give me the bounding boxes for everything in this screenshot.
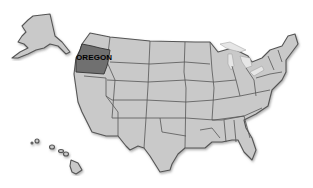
hawaii-inset <box>31 139 82 174</box>
oregon-label: OREGON <box>76 53 112 62</box>
us-map <box>0 0 313 188</box>
alaska-inset <box>12 14 70 58</box>
